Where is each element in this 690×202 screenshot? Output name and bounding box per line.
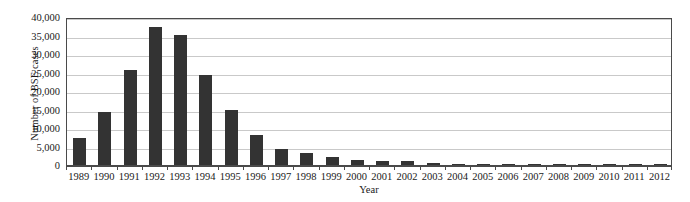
bar [654, 164, 667, 165]
bar [502, 164, 515, 165]
x-tick-label: 2001 [369, 170, 394, 183]
bar [149, 27, 162, 165]
x-tick-label: 1998 [293, 170, 318, 183]
y-tick-label: 40,000 [8, 13, 60, 23]
bar [225, 110, 238, 165]
bar [603, 164, 616, 165]
bars-layer [67, 19, 671, 165]
x-tick-label: 2003 [420, 170, 445, 183]
y-tick-label: 5,000 [8, 143, 60, 153]
bar [275, 149, 288, 165]
y-tick-label: 25,000 [8, 69, 60, 79]
bar [578, 164, 591, 165]
bar [477, 164, 490, 165]
x-tick-label: 2000 [344, 170, 369, 183]
x-tick-label: 1995 [218, 170, 243, 183]
y-tick-label: 0 [8, 161, 60, 171]
x-tick-label: 2004 [445, 170, 470, 183]
x-axis-title: Year [66, 184, 672, 195]
x-tick-label: 2009 [571, 170, 596, 183]
bar [528, 164, 541, 165]
bar [250, 135, 263, 165]
bse-cases-bar-chart: Number of BSE cases 05,00010,00015,00020… [0, 0, 690, 202]
x-tick-label: 2008 [546, 170, 571, 183]
bar [98, 112, 111, 165]
bar [401, 161, 414, 165]
x-tick-label: 1989 [66, 170, 91, 183]
y-tick-label: 30,000 [8, 50, 60, 60]
x-tick-label: 1993 [167, 170, 192, 183]
x-tick-label: 2005 [470, 170, 495, 183]
bar [73, 138, 86, 165]
x-tick-label: 2007 [521, 170, 546, 183]
y-tick-label: 35,000 [8, 32, 60, 42]
bar [376, 161, 389, 165]
x-tick-label: 1994 [192, 170, 217, 183]
bar [124, 70, 137, 165]
x-tick-label: 2006 [495, 170, 520, 183]
bar [174, 35, 187, 165]
bar [326, 157, 339, 166]
y-axis-tick-labels: 05,00010,00015,00020,00025,00030,00035,0… [8, 18, 60, 166]
y-tick-label: 10,000 [8, 124, 60, 134]
x-tick-label: 1997 [268, 170, 293, 183]
x-axis-tick-labels: 1989199019911992199319941995199619971998… [66, 170, 672, 184]
x-tick-label: 2010 [596, 170, 621, 183]
y-tick-label: 20,000 [8, 87, 60, 97]
bar [199, 75, 212, 165]
bar [351, 160, 364, 165]
x-tick-label: 2011 [622, 170, 647, 183]
x-tick-label: 1990 [91, 170, 116, 183]
bar [452, 164, 465, 165]
x-tick-label: 1999 [319, 170, 344, 183]
bar [427, 163, 440, 165]
x-tick-label: 1996 [243, 170, 268, 183]
bar [629, 164, 642, 165]
bar [553, 164, 566, 165]
x-tick-label: 2002 [394, 170, 419, 183]
x-tick-label: 1992 [142, 170, 167, 183]
x-tick-label: 1991 [117, 170, 142, 183]
x-tick-label: 2012 [647, 170, 672, 183]
y-tick-label: 15,000 [8, 106, 60, 116]
bar [300, 153, 313, 165]
plot-area [66, 18, 672, 166]
